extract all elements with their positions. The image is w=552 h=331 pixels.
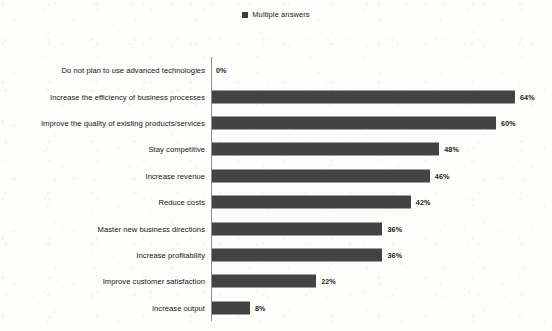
bar bbox=[212, 196, 411, 209]
bar-value-label: 22% bbox=[321, 277, 336, 286]
category-label: Increase profitability bbox=[136, 250, 205, 259]
bar-and-value: 0% bbox=[212, 64, 227, 77]
bar bbox=[212, 116, 496, 129]
category-label: Improve the quality of existing products… bbox=[41, 118, 205, 127]
bar bbox=[212, 301, 250, 314]
category-label: Increase output bbox=[152, 303, 205, 312]
plot-area: Do not plan to use advanced technologies… bbox=[0, 57, 552, 321]
bar-value-label: 0% bbox=[216, 66, 227, 75]
bar-value-label: 48% bbox=[444, 145, 459, 154]
bar bbox=[212, 275, 316, 288]
bar-and-value: 36% bbox=[212, 222, 402, 235]
bar-and-value: 42% bbox=[212, 196, 431, 209]
bar-and-value: 22% bbox=[212, 275, 336, 288]
bar-value-label: 42% bbox=[416, 198, 431, 207]
legend-label: Multiple answers bbox=[252, 11, 309, 19]
chart-legend: Multiple answers bbox=[0, 11, 552, 19]
bar-row: Improve the quality of existing products… bbox=[0, 110, 552, 136]
bar-row: Stay competitive48% bbox=[0, 136, 552, 162]
bar bbox=[212, 143, 439, 156]
category-label: Increase revenue bbox=[146, 171, 205, 180]
bar-value-label: 36% bbox=[387, 250, 402, 259]
category-label: Master new business directions bbox=[98, 224, 205, 233]
bar-row: Do not plan to use advanced technologies… bbox=[0, 57, 552, 83]
category-label: Reduce costs bbox=[158, 198, 205, 207]
category-label: Stay competitive bbox=[148, 145, 205, 154]
legend-swatch-icon bbox=[242, 12, 248, 18]
category-label: Do not plan to use advanced technologies bbox=[62, 66, 205, 75]
bar-value-label: 64% bbox=[520, 92, 535, 101]
bar bbox=[212, 248, 382, 261]
bar-row: Improve customer satisfaction22% bbox=[0, 268, 552, 294]
category-label: Improve customer satisfaction bbox=[103, 277, 205, 286]
bar-row: Increase the efficiency of business proc… bbox=[0, 83, 552, 109]
bar-row: Reduce costs42% bbox=[0, 189, 552, 215]
bar-and-value: 46% bbox=[212, 169, 449, 182]
horizontal-bar-chart: Multiple answers Do not plan to use adva… bbox=[0, 0, 552, 331]
bar-value-label: 8% bbox=[255, 303, 266, 312]
bar-and-value: 60% bbox=[212, 116, 516, 129]
bar bbox=[212, 222, 382, 235]
bar bbox=[212, 169, 430, 182]
bar bbox=[212, 90, 515, 103]
bar-and-value: 36% bbox=[212, 248, 402, 261]
bar-and-value: 64% bbox=[212, 90, 535, 103]
category-label: Increase the efficiency of business proc… bbox=[50, 92, 205, 101]
bar-value-label: 46% bbox=[435, 171, 450, 180]
bar-value-label: 60% bbox=[501, 118, 516, 127]
bar-and-value: 8% bbox=[212, 301, 265, 314]
bar-and-value: 48% bbox=[212, 143, 459, 156]
bar-value-label: 36% bbox=[387, 224, 402, 233]
bar-row: Increase profitability36% bbox=[0, 242, 552, 268]
bar-row: Increase revenue46% bbox=[0, 163, 552, 189]
bar-row: Increase output8% bbox=[0, 295, 552, 321]
bar-row: Master new business directions36% bbox=[0, 215, 552, 241]
